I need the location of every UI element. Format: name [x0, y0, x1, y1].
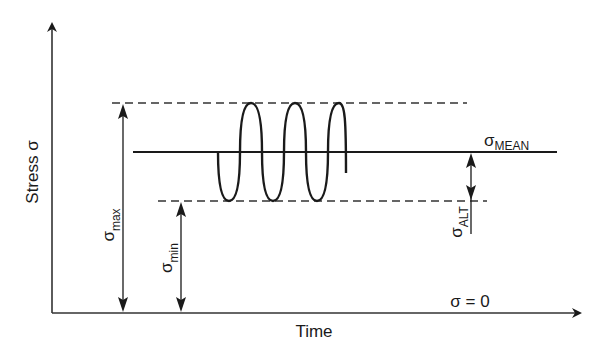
- x-axis-label: Time: [295, 322, 332, 341]
- stress-cycle-diagram: Stress σ Time σ = 0 σmax σmin: [0, 0, 599, 359]
- y-axis-label: Stress σ: [23, 140, 42, 204]
- sigma-alt-label: σALT: [447, 206, 471, 238]
- zero-stress-label: σ = 0: [450, 292, 489, 311]
- sigma-min-label: σmin: [157, 243, 181, 273]
- sigma-max-label: σmax: [99, 208, 123, 241]
- sigma-mean-label: σMEAN: [484, 131, 529, 153]
- sigma-max-dimension: [118, 104, 128, 312]
